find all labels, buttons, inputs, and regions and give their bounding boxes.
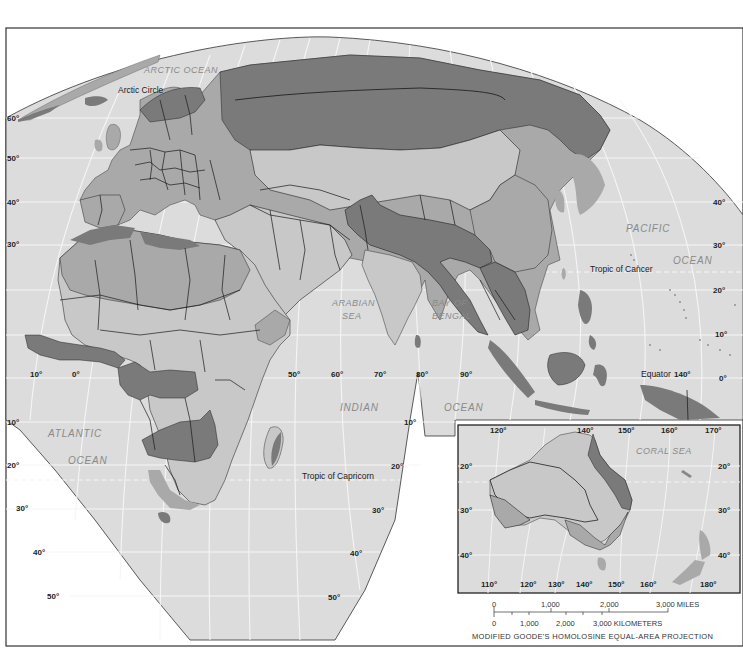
- inset-lon-label: 170°: [705, 426, 722, 435]
- australia-inset: [458, 425, 740, 593]
- scale-km-1000: 1,000: [520, 619, 539, 628]
- projection-caption: MODIFIED GOODE'S HOMOLOSINE EQUAL-AREA P…: [472, 632, 713, 641]
- scale-miles-1000: 1,000: [541, 600, 560, 609]
- inset-lat-label: 20°: [718, 462, 730, 471]
- scale-km-2000: 2,000: [556, 619, 575, 628]
- inset-lon-label: 120°: [520, 580, 537, 589]
- lat-label: 20°: [391, 462, 403, 471]
- label-tropic-of-cancer: Tropic of Cancer: [590, 264, 653, 274]
- inset-lon-label: 160°: [640, 580, 657, 589]
- lat-label: 20°: [713, 286, 725, 295]
- inset-lon-label: 160°: [661, 426, 678, 435]
- inset-lon-label: 140°: [577, 426, 594, 435]
- world-map: [0, 0, 743, 670]
- label-arctic-circle: Arctic Circle: [118, 85, 163, 95]
- label-indian: INDIAN: [340, 402, 379, 413]
- scale-km-0: 0: [492, 619, 496, 628]
- lat-label: 0°: [719, 374, 727, 383]
- label-arctic-ocean: ARCTIC OCEAN: [144, 65, 218, 75]
- lon-label: 140°: [674, 370, 691, 379]
- lat-label: 30°: [7, 240, 19, 249]
- inset-lat-label: 20°: [460, 462, 472, 471]
- label-arabian-sea: SEA: [342, 311, 362, 321]
- scale-miles-2000: 2,000: [600, 600, 619, 609]
- label-equator: Equator: [641, 369, 671, 379]
- label-coral-sea: CORAL SEA: [636, 446, 692, 456]
- lat-label: 30°: [713, 241, 725, 250]
- lat-label: 10°: [404, 418, 416, 427]
- lat-label: 50°: [7, 154, 19, 163]
- label-bengal: BENGAL: [432, 311, 472, 321]
- scale-miles-3000: 3,000 MILES: [656, 600, 699, 609]
- inset-lon-label: 120°: [490, 426, 507, 435]
- lat-label: 20°: [7, 461, 19, 470]
- scale-miles-0: 0: [492, 600, 496, 609]
- label-pacific-ocean: OCEAN: [673, 255, 713, 266]
- inset-lon-label: 110°: [481, 580, 497, 589]
- inset-lon-label: 140°: [576, 580, 593, 589]
- lat-label: 50°: [47, 592, 59, 601]
- scale-km-3000: 3,000 KILOMETERS: [593, 619, 662, 628]
- lon-label: 60°: [331, 370, 343, 379]
- lon-label: 90°: [460, 370, 472, 379]
- lat-label: 10°: [7, 418, 19, 427]
- inset-lon-label: 180°: [700, 580, 717, 589]
- lat-label: 10°: [715, 330, 727, 339]
- label-bay-of: BAY OF: [432, 298, 467, 308]
- lat-label: 40°: [713, 198, 725, 207]
- label-indian-ocean: OCEAN: [444, 402, 484, 413]
- lon-label: 70°: [374, 370, 386, 379]
- label-pacific: PACIFIC: [626, 223, 670, 234]
- inset-lon-label: 130°: [548, 580, 565, 589]
- lat-label: 50°: [328, 593, 340, 602]
- inset-lat-label: 40°: [460, 551, 472, 560]
- lon-label: 0°: [72, 370, 80, 379]
- lon-label: 10°: [30, 370, 42, 379]
- lat-label: 30°: [16, 504, 28, 513]
- label-tropic-of-capricorn: Tropic of Capricorn: [302, 471, 374, 481]
- lat-label: 40°: [7, 198, 19, 207]
- inset-lat-label: 30°: [718, 506, 730, 515]
- inset-lat-label: 40°: [718, 551, 730, 560]
- lat-label: 30°: [372, 506, 384, 515]
- lon-label: 50°: [288, 370, 300, 379]
- label-arabian: ARABIAN: [332, 298, 375, 308]
- label-atlantic: ATLANTIC: [48, 428, 102, 439]
- lat-label: 60°: [7, 114, 19, 123]
- inset-lon-label: 150°: [618, 426, 635, 435]
- lat-label: 40°: [33, 548, 45, 557]
- inset-lon-label: 150°: [608, 580, 625, 589]
- lat-label: 40°: [350, 549, 362, 558]
- lon-label: 80°: [416, 370, 428, 379]
- label-atlantic-ocean: OCEAN: [68, 455, 108, 466]
- inset-lat-label: 30°: [460, 506, 472, 515]
